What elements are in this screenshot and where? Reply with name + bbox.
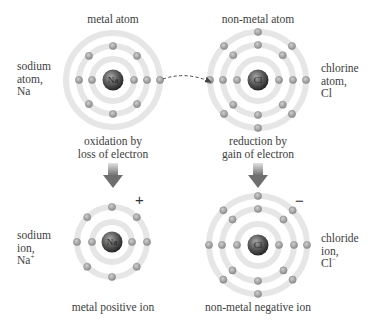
electron-icon: [233, 241, 240, 248]
electron-icon: [254, 28, 261, 35]
electron-icon: [219, 76, 226, 83]
reduction-down-arrow-icon: [248, 163, 268, 188]
positive-charge-sign: +: [135, 192, 144, 207]
electron-icon: [288, 42, 295, 49]
electron-icon: [218, 241, 225, 248]
electron-icon: [73, 238, 80, 245]
electron-icon: [220, 207, 227, 214]
electron-icon: [280, 216, 287, 223]
electron-icon: [220, 110, 227, 117]
electron-icon: [254, 205, 261, 212]
electron-icon: [133, 214, 140, 221]
negative-charge-sign: −: [295, 193, 304, 208]
electron-icon: [109, 110, 116, 117]
electron-icon: [275, 241, 282, 248]
nucleus-symbol: Na: [108, 75, 119, 85]
electron-icon: [108, 273, 115, 280]
electron-icon: [233, 76, 240, 83]
nucleus-symbol: Cl: [254, 75, 263, 85]
electron-icon: [143, 76, 150, 83]
electron-icon: [289, 276, 296, 283]
electron-icon: [288, 110, 295, 117]
electron-icon: [156, 76, 163, 83]
oxidation-caption: oxidation by loss of electron: [78, 135, 148, 160]
electron-icon: [254, 111, 261, 118]
electron-icon: [84, 214, 91, 221]
sodium-ion-model: Na: [73, 203, 150, 280]
oxidation-down-arrow-icon: [103, 163, 123, 188]
electron-icon: [302, 76, 309, 83]
nucleus-symbol: Na: [107, 237, 118, 247]
electron-icon: [88, 76, 95, 83]
electron-icon: [84, 263, 91, 270]
chloride-ion-label: chloride ion, Cl−: [321, 232, 359, 270]
electron-icon: [254, 290, 261, 297]
electron-icon: [220, 276, 227, 283]
electron-icon: [108, 203, 115, 210]
electron-icon: [143, 238, 150, 245]
electron-icon: [303, 241, 310, 248]
sodium-ion-superscript: +: [30, 253, 34, 261]
electron-icon: [230, 101, 237, 108]
electron-icon: [254, 192, 261, 199]
electron-icon: [109, 42, 116, 49]
electron-icon: [279, 101, 286, 108]
electron-icon: [275, 76, 282, 83]
electron-icon: [290, 241, 297, 248]
electron-icon: [230, 52, 237, 59]
chlorine-atom-label: chlorine atom, Cl: [321, 62, 359, 100]
nucleus-symbol: Cl: [254, 240, 263, 250]
electron-icon: [133, 52, 140, 59]
electron-icon: [254, 41, 261, 48]
non-metal-atom-heading: non-metal atom: [222, 13, 295, 26]
electron-icon: [133, 100, 140, 107]
sodium-ion-label: sodium ion, Na+: [17, 229, 51, 267]
ionic-bond-diagram: Na Cl Na Cl metal atom non-metal atom so…: [0, 0, 376, 322]
metal-positive-ion-caption: metal positive ion: [72, 301, 154, 314]
electron-icon: [280, 267, 287, 274]
electron-icon: [85, 100, 92, 107]
electron-icon: [279, 52, 286, 59]
diagram-canvas: Na Cl Na Cl: [0, 0, 376, 322]
electron-icon: [133, 263, 140, 270]
electron-icon: [206, 76, 213, 83]
metal-atom-heading: metal atom: [87, 13, 138, 26]
electron-icon: [128, 238, 135, 245]
electron-icon: [85, 52, 92, 59]
sodium-ion-formula: Na: [17, 254, 30, 266]
electron-icon: [88, 238, 95, 245]
electron-icon: [254, 124, 261, 131]
electron-icon: [205, 241, 212, 248]
electron-icon: [75, 76, 82, 83]
sodium-atom-label: sodium atom, Na: [17, 60, 51, 98]
electron-transfer-arrow-icon: [163, 76, 211, 82]
sodium-atom-model: Na: [66, 33, 164, 127]
electron-icon: [220, 42, 227, 49]
electron-icon: [229, 216, 236, 223]
electron-icon: [229, 267, 236, 274]
chloride-ion-superscript: −: [332, 256, 336, 264]
electron-icon: [130, 76, 137, 83]
reduction-caption: reduction by gain of electron: [222, 135, 294, 160]
non-metal-negative-ion-caption: non-metal negative ion: [205, 301, 311, 314]
electron-icon: [254, 277, 261, 284]
chlorine-atom-model: Cl: [206, 28, 309, 131]
chloride-ion-formula: Cl: [321, 257, 332, 269]
electron-icon: [289, 76, 296, 83]
